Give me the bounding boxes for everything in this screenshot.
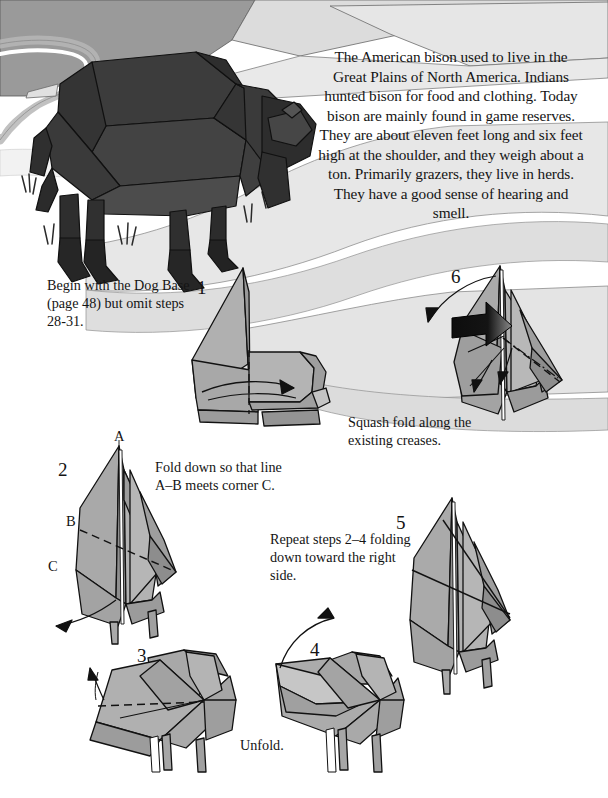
origami-instruction-page: The American bison used to live in the G… — [0, 0, 608, 798]
vertex-label-b: B — [66, 513, 76, 530]
step-number-3: 3 — [137, 645, 147, 667]
vertex-label-c: C — [48, 558, 58, 575]
step-3-diagram — [88, 650, 236, 772]
step-number-1: 1 — [197, 277, 207, 299]
step-number-5: 5 — [396, 512, 406, 534]
step-5-diagram — [410, 498, 510, 694]
step-6-caption: Squash fold along the existing creases. — [348, 413, 508, 449]
bison-intro-paragraph: The American bison used to live in the G… — [318, 47, 584, 223]
vertex-label-a: A — [114, 428, 124, 445]
step-4-caption: Unfold. — [240, 736, 340, 754]
step-5-caption: Repeat steps 2–4 folding down toward the… — [270, 530, 420, 585]
step-number-6: 6 — [451, 266, 461, 288]
step-2-caption: Fold down so that line A–B meets corner … — [155, 458, 295, 494]
step-number-4: 4 — [310, 639, 320, 661]
step-number-2: 2 — [58, 459, 68, 481]
step-1-caption: Begin with the Dog Base (page 48) but om… — [47, 276, 197, 331]
